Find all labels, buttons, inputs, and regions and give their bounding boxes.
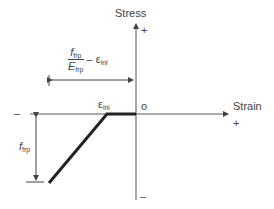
x-plus: + — [233, 117, 239, 129]
x-minus: – — [14, 107, 20, 119]
frp-strain-fraction: ffrp Efrp – εini — [68, 46, 108, 73]
f-frp-label: ffrp — [19, 140, 30, 153]
origin-label: o — [141, 100, 147, 112]
eps-ini-label: εini — [98, 98, 110, 111]
y-plus: + — [141, 24, 147, 36]
y-minus: – — [140, 190, 146, 202]
x-axis-label: Strain — [233, 100, 262, 112]
stress-strain-curve — [49, 114, 136, 183]
y-axis-label: Stress — [115, 7, 146, 19]
